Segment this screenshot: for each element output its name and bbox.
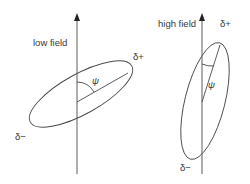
- panel-low-field: low field ψ δ+ δ−: [15, 13, 144, 174]
- negative-charge-label-low: δ−: [15, 131, 26, 142]
- arrowhead-icon: [74, 13, 80, 21]
- positive-charge-label-low: δ+: [133, 51, 144, 62]
- molecule-ellipse-low: [21, 48, 142, 139]
- negative-charge-label-high: δ−: [180, 162, 191, 173]
- angle-label-low: ψ: [92, 75, 99, 86]
- dipole-orientation-diagram: low field ψ δ+ δ− high field ψ δ+ δ−: [0, 0, 250, 184]
- arrowhead-icon: [199, 13, 205, 21]
- molecule-ellipse-high: [171, 38, 239, 164]
- positive-charge-label-high: δ+: [220, 18, 231, 29]
- field-label-low: low field: [33, 37, 67, 48]
- field-label-high: high field: [158, 18, 196, 29]
- angle-arc-high: [202, 64, 214, 66]
- panel-high-field: high field ψ δ+ δ−: [158, 13, 239, 174]
- angle-label-high: ψ: [208, 79, 215, 90]
- dipole-axis-low: [77, 73, 128, 102]
- dipole-axis-high: [202, 45, 220, 102]
